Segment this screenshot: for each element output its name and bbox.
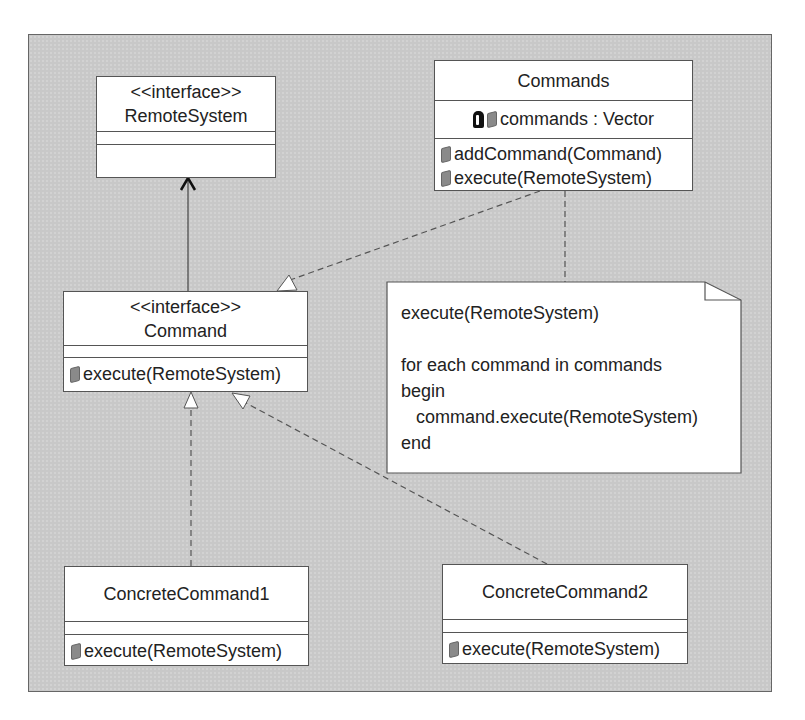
note-line [401, 326, 741, 352]
attributes-section [65, 622, 308, 635]
class-header: ConcreteCommand2 [443, 565, 687, 620]
operation-row: execute(RemoteSystem) [443, 637, 687, 661]
operations-section: execute(RemoteSystem) [65, 635, 308, 663]
class-name: RemoteSystem [97, 104, 275, 128]
stereotype-label: <<interface>> [97, 80, 275, 104]
operation-row: execute(RemoteSystem) [435, 166, 692, 190]
operation-text: addCommand(Command) [454, 144, 662, 165]
operations-section: execute(RemoteSystem) [443, 633, 687, 661]
operation-text: execute(RemoteSystem) [454, 168, 652, 189]
attributes-section [443, 620, 687, 633]
class-name: Commands [435, 69, 692, 93]
operation-row: execute(RemoteSystem) [64, 362, 307, 386]
attributes-section: commands : Vector [435, 101, 692, 139]
class-name: Command [64, 319, 307, 343]
class-command[interactable]: <<interface>> Command execute(RemoteSyst… [63, 291, 308, 392]
operation-icon [70, 365, 80, 382]
lock-icon [473, 111, 484, 128]
attribute-row: commands : Vector [435, 107, 692, 131]
stereotype-label: <<interface>> [64, 295, 307, 319]
operation-row: addCommand(Command) [435, 142, 692, 166]
operation-icon [449, 640, 459, 657]
operations-section: execute(RemoteSystem) [64, 358, 307, 386]
class-remote-system[interactable]: <<interface>> RemoteSystem [96, 76, 276, 178]
operation-icon [441, 145, 451, 162]
class-name: ConcreteCommand2 [443, 580, 687, 604]
class-header: Commands [435, 61, 692, 101]
operation-text: execute(RemoteSystem) [83, 364, 281, 385]
operations-section: addCommand(Command) execute(RemoteSystem… [435, 139, 692, 190]
note-line: execute(RemoteSystem) [401, 300, 741, 326]
operations-section [97, 145, 275, 178]
operation-icon [441, 169, 451, 186]
note-comment: execute(RemoteSystem) for each command i… [387, 282, 741, 473]
note-line: begin [401, 378, 741, 404]
class-header: <<interface>> RemoteSystem [97, 77, 275, 132]
class-header: ConcreteCommand1 [65, 567, 308, 622]
class-name: ConcreteCommand1 [65, 582, 308, 606]
attribute-text: commands : Vector [500, 109, 654, 130]
attribute-icon [487, 110, 497, 127]
class-header: <<interface>> Command [64, 292, 307, 346]
operation-text: execute(RemoteSystem) [84, 641, 282, 662]
attributes-section [64, 346, 307, 358]
operation-icon [71, 642, 81, 659]
attributes-section [97, 132, 275, 145]
class-concrete-command-2[interactable]: ConcreteCommand2 execute(RemoteSystem) [442, 564, 688, 664]
operation-text: execute(RemoteSystem) [462, 639, 660, 660]
note-line: command.execute(RemoteSystem) [401, 404, 741, 430]
note-line: end [401, 430, 741, 456]
operation-row: execute(RemoteSystem) [65, 639, 308, 663]
class-commands[interactable]: Commands commands : Vector addCommand(Co… [434, 60, 693, 191]
class-concrete-command-1[interactable]: ConcreteCommand1 execute(RemoteSystem) [64, 566, 309, 666]
note-line: for each command in commands [401, 352, 741, 378]
